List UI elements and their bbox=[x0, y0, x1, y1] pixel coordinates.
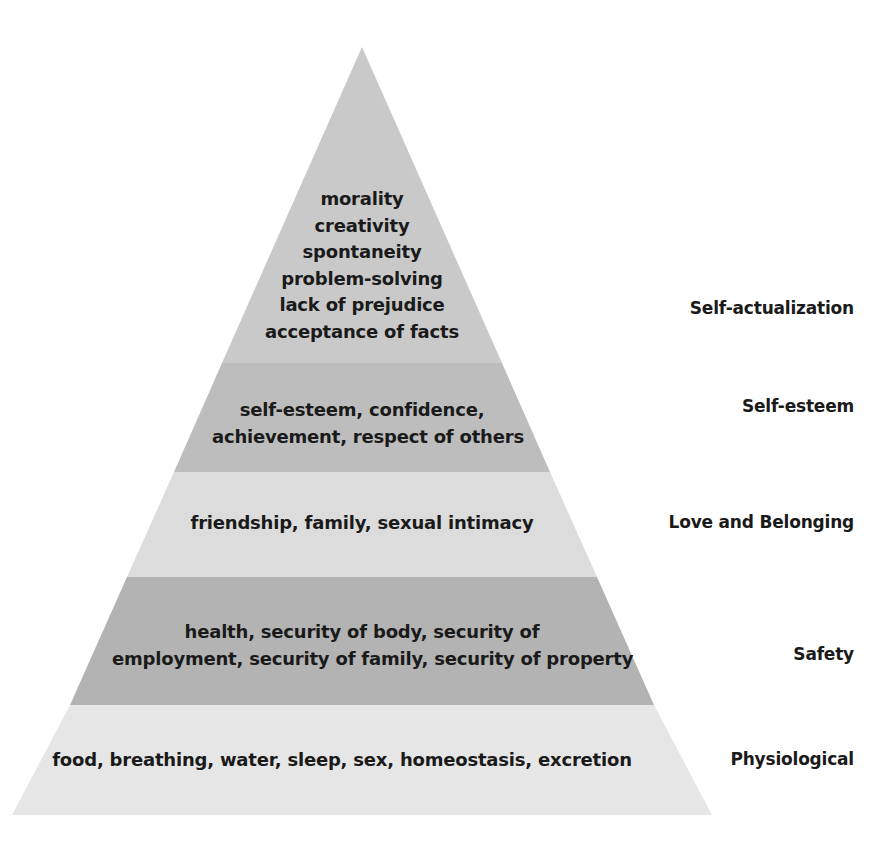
item: employment, security of family, security… bbox=[112, 645, 612, 672]
item: acceptance of facts bbox=[262, 319, 462, 346]
item: self-esteem, confidence, bbox=[212, 396, 512, 423]
level-label-self-esteem: Self-esteem bbox=[742, 396, 854, 416]
item: friendship, family, sexual intimacy bbox=[187, 512, 537, 533]
level-label-love-belonging: Love and Belonging bbox=[669, 512, 854, 532]
level-label-physiological: Physiological bbox=[730, 749, 854, 769]
item: spontaneity bbox=[262, 239, 462, 266]
item: creativity bbox=[262, 213, 462, 240]
item: lack of prejudice bbox=[262, 292, 462, 319]
level-label-safety: Safety bbox=[793, 644, 854, 664]
item: achievement, respect of others bbox=[212, 423, 512, 450]
layer-self-actualization-text: morality creativity spontaneity problem-… bbox=[262, 186, 462, 345]
level-label-self-actualization: Self-actualization bbox=[690, 298, 854, 318]
layer-self-esteem-text: self-esteem, confidence, achievement, re… bbox=[212, 396, 512, 450]
layer-physiological-text: food, breathing, water, sleep, sex, home… bbox=[42, 749, 642, 770]
item: food, breathing, water, sleep, sex, home… bbox=[42, 749, 642, 770]
layer-safety-text: health, security of body, security of em… bbox=[112, 618, 612, 672]
layer-love-belonging-text: friendship, family, sexual intimacy bbox=[187, 512, 537, 533]
item: problem-solving bbox=[262, 266, 462, 293]
item: morality bbox=[262, 186, 462, 213]
item: health, security of body, security of bbox=[112, 618, 612, 645]
